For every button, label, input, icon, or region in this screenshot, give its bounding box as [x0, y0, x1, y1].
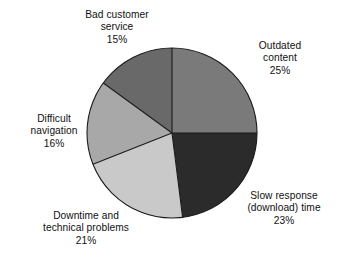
slice-label-outdated-content: Outdated content 25%	[233, 40, 327, 77]
slice-label-slow-response: Slow response (download) time 23%	[228, 190, 340, 227]
slice-label-line-1: Downtime and	[22, 210, 150, 222]
slice-label-percent: 21%	[22, 235, 150, 247]
slice-label-bad-customer-service: Bad customer service 15%	[60, 9, 174, 46]
slice-label-difficult-navigation: Difficult navigation 16%	[8, 113, 100, 150]
slice-label-percent: 23%	[228, 215, 340, 227]
slice-label-downtime-technical-problems: Downtime and technical problems 21%	[22, 210, 150, 247]
slice-label-line-1: Outdated	[233, 40, 327, 52]
slice-label-line-1: Slow response	[228, 190, 340, 202]
slice-label-percent: 15%	[60, 34, 174, 46]
slice-label-percent: 16%	[8, 138, 100, 150]
slice-label-line-2: navigation	[8, 125, 100, 137]
slice-label-line-1: Difficult	[8, 113, 100, 125]
slice-label-line-2: technical problems	[22, 222, 150, 234]
slice-label-percent: 25%	[233, 65, 327, 77]
slice-label-line-2: (download) time	[228, 202, 340, 214]
slice-label-line-1: Bad customer	[60, 9, 174, 21]
pie-chart: Outdated content 25% Slow response (down…	[0, 0, 346, 267]
slice-label-line-2: content	[233, 52, 327, 64]
slice-label-line-2: service	[60, 21, 174, 33]
